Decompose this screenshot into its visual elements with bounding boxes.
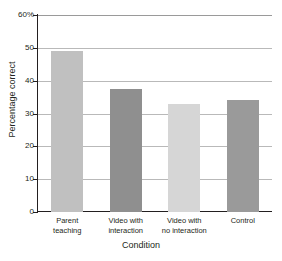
y-tick-label-10: 10: [4, 175, 34, 183]
x-tick-label-line: Video with: [97, 216, 156, 226]
y-tick-mark-50: [33, 48, 37, 49]
bar: [51, 51, 83, 212]
bar-chart-figure: Percentage correct Condition 01020304050…: [0, 0, 282, 261]
x-tick-label-0: Parentteaching: [38, 216, 97, 235]
y-tick-mark-10: [33, 179, 37, 180]
gridline-50: [38, 48, 272, 49]
y-tick-mark-60: [33, 15, 37, 16]
gridline-60: [38, 15, 272, 16]
x-tick-label-line: Control: [214, 216, 273, 226]
y-tick-label-50: 50: [4, 44, 34, 52]
y-tick-mark-30: [33, 114, 37, 115]
bar: [168, 104, 200, 212]
x-tick-label-line: interaction: [97, 226, 156, 236]
y-tick-mark-40: [33, 81, 37, 82]
x-tick-label-3: Control: [214, 216, 273, 226]
x-axis-title: Condition: [0, 240, 282, 251]
bar: [227, 100, 259, 212]
x-tick-label-1: Video withinteraction: [97, 216, 156, 235]
x-tick-label-line: Video with: [155, 216, 214, 226]
y-tick-label-40: 40: [4, 77, 34, 85]
x-tick-label-line: teaching: [38, 226, 97, 236]
y-tick-label-30: 30: [4, 110, 34, 118]
y-tick-mark-20: [33, 146, 37, 147]
y-tick-label-60: 60%: [4, 11, 34, 19]
y-tick-label-0: 0: [4, 208, 34, 216]
x-tick-label-2: Video withno interaction: [155, 216, 214, 235]
plot-area: [38, 15, 272, 212]
cropped-caption-remnant: [38, 0, 218, 6]
y-tick-mark-0: [33, 212, 37, 213]
bar: [110, 89, 142, 212]
y-tick-label-20: 20: [4, 142, 34, 150]
x-tick-label-line: Parent: [38, 216, 97, 226]
x-tick-label-line: no interaction: [155, 226, 214, 236]
